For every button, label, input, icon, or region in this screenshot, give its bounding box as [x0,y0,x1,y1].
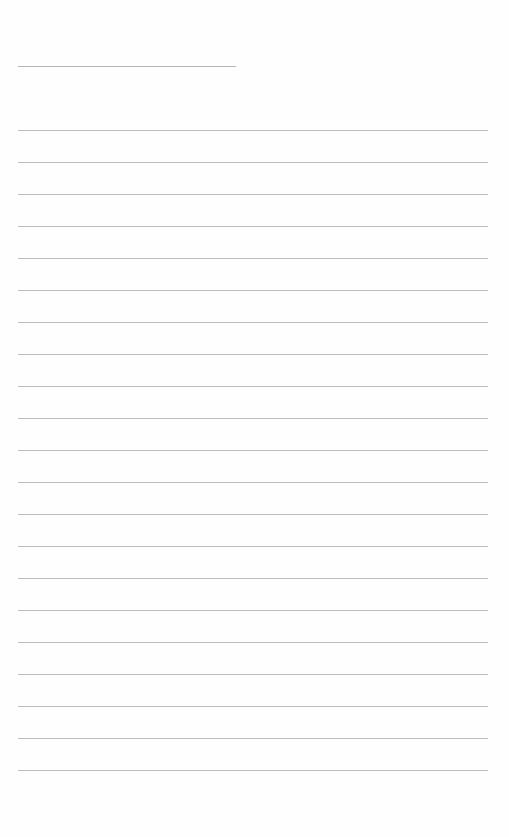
ruled-line [18,642,488,643]
ruled-line [18,418,488,419]
ruled-line [18,386,488,387]
ruled-line [18,450,488,451]
ruled-line [18,162,488,163]
ruled-line [18,194,488,195]
ruled-line [18,770,488,771]
ruled-line [18,738,488,739]
ruled-line [18,610,488,611]
ruled-line [18,482,488,483]
ruled-line [18,546,488,547]
ruled-line [18,706,488,707]
ruled-line [18,514,488,515]
ruled-line [18,130,488,131]
ruled-line [18,290,488,291]
ruled-line [18,226,488,227]
ruled-line [18,578,488,579]
title-underline [18,66,236,67]
ruled-line [18,354,488,355]
lined-paper-page [0,0,509,837]
ruled-line [18,322,488,323]
ruled-line [18,674,488,675]
ruled-line [18,258,488,259]
